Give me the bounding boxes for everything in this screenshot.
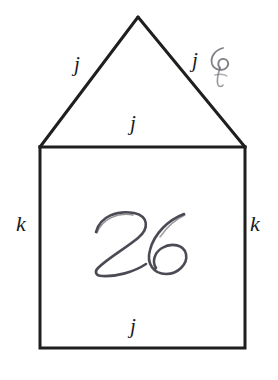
label-triangle-base: j [130,113,136,134]
label-triangle-left-side: j [74,54,80,75]
label-square-right-side: k [250,213,260,235]
label-triangle-right-side: j [192,50,198,71]
label-square-left-side: k [16,213,26,235]
geometry-figure: j j j j k k [0,0,278,380]
label-square-bottom: j [130,316,136,337]
triangle-left-side-line [40,17,138,147]
handwritten-scribble-annotation [204,44,234,90]
handwritten-26-annotation [88,200,200,288]
figure-outline-svg [0,0,278,380]
